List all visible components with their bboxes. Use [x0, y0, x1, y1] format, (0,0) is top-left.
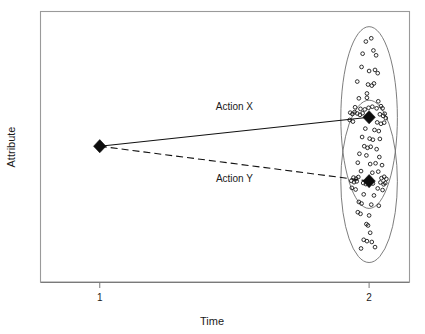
scatter-plot-svg: 12 Time Attribute Action X Action Y	[0, 0, 425, 334]
x-tick-label: 1	[97, 292, 103, 303]
x-tick-label: 2	[366, 292, 372, 303]
action-x-label: Action X	[216, 101, 254, 112]
plot-background	[0, 0, 425, 334]
chart-container: 12 Time Attribute Action X Action Y	[0, 0, 425, 334]
x-axis-title: Time	[200, 315, 224, 327]
action-y-label: Action Y	[216, 173, 253, 184]
y-axis-title: Attribute	[5, 127, 17, 168]
